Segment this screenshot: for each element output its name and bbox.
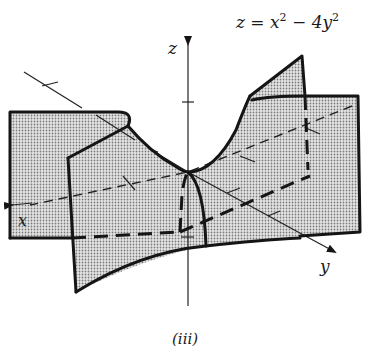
back-right-panel [188, 56, 360, 238]
x-axis-label: x [18, 211, 27, 230]
figure-caption: (iii) [172, 330, 198, 348]
saddle-surface-figure: z = x2 − 4y2 [0, 0, 368, 351]
z-axis-label: z [167, 38, 178, 58]
equation-label: z = x2 − 4y2 [235, 11, 339, 32]
y-axis-label: y [319, 256, 330, 276]
